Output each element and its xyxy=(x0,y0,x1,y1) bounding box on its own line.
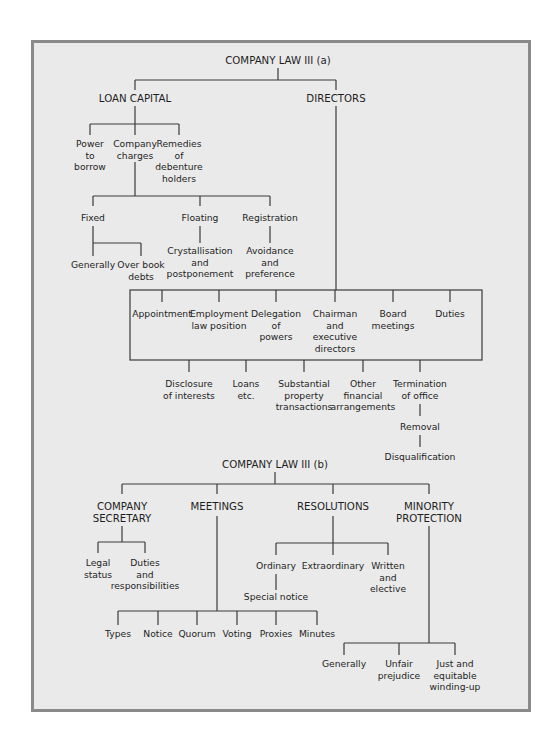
node-crystallisation-line: postponement xyxy=(167,268,234,279)
node-floating-line: Floating xyxy=(182,212,219,223)
node-written-elective-line: and xyxy=(379,572,396,583)
node-company-charges: Companycharges xyxy=(113,138,157,161)
node-meetings-minutes: Minutes xyxy=(299,628,335,639)
node-director-loans-line: Loans xyxy=(233,378,260,389)
node-director-chairman: Chairmanandexecutivedirectors xyxy=(313,308,358,354)
node-director-property-line: property xyxy=(284,390,324,401)
node-power-to-borrow: Powertoborrow xyxy=(74,138,106,172)
heading-meetings-line: MEETINGS xyxy=(191,501,244,512)
heading-loan-capital-line: LOAN CAPITAL xyxy=(99,93,172,104)
node-remedies-debenture-holders-line: Remedies xyxy=(156,138,201,149)
node-director-board-line: meetings xyxy=(372,320,415,331)
node-power-to-borrow-line: Power xyxy=(76,138,104,149)
node-meetings-quorum-line: Quorum xyxy=(178,628,215,639)
node-power-to-borrow-line: borrow xyxy=(74,161,106,172)
node-special-notice: Special notice xyxy=(244,591,309,602)
directors-box xyxy=(130,290,482,360)
node-director-appointment-line: Appointment xyxy=(132,308,192,319)
node-fixed-generally: Generally xyxy=(71,259,116,270)
node-power-to-borrow-line: to xyxy=(85,150,95,161)
company-law-diagram: COMPANY LAW III (a)LOAN CAPITALDIRECTORS… xyxy=(0,0,554,744)
node-director-financial-line: financial xyxy=(344,390,383,401)
node-legal-status: Legalstatus xyxy=(84,557,112,580)
node-over-book-debts-line: debts xyxy=(128,271,154,282)
node-remedies-debenture-holders-line: of xyxy=(175,150,185,161)
node-removal-line: Removal xyxy=(400,421,440,432)
node-duties-responsibilities-line: and xyxy=(136,569,153,580)
node-director-disclosure-line: of interests xyxy=(163,390,215,401)
node-remedies-debenture-holders-line: holders xyxy=(162,173,196,184)
node-company-charges-line: charges xyxy=(117,150,154,161)
node-written-elective-line: elective xyxy=(370,583,407,594)
node-crystallisation-line: Crystallisation xyxy=(167,245,232,256)
node-registration-line: Registration xyxy=(242,212,298,223)
node-director-financial: Otherfinancialarrangements xyxy=(331,378,396,412)
node-floating: Floating xyxy=(182,212,219,223)
node-meetings-voting: Voting xyxy=(222,628,251,639)
node-disqualification-line: Disqualification xyxy=(385,451,456,462)
title-company-law-a: COMPANY LAW III (a) xyxy=(225,55,331,66)
node-written-elective: Writtenandelective xyxy=(370,560,407,594)
node-director-chairman-line: executive xyxy=(313,331,358,342)
heading-resolutions-line: RESOLUTIONS xyxy=(297,501,369,512)
node-registration: Registration xyxy=(242,212,298,223)
node-unfair-prejudice-line: prejudice xyxy=(378,670,421,681)
node-director-employment: Employmentlaw position xyxy=(190,308,249,331)
node-remedies-debenture-holders-line: debenture xyxy=(155,161,203,172)
node-director-financial-line: arrangements xyxy=(331,401,396,412)
node-director-disclosure-line: Disclosure xyxy=(165,378,213,389)
node-remedies-debenture-holders: Remediesofdebentureholders xyxy=(155,138,203,184)
node-company-charges-line: Company xyxy=(113,138,157,149)
node-director-termination-line: Termination xyxy=(392,378,447,389)
node-director-termination: Terminationof office xyxy=(392,378,447,401)
node-labels: COMPANY LAW III (a)LOAN CAPITALDIRECTORS… xyxy=(71,55,481,692)
heading-company-secretary-line: COMPANY xyxy=(97,501,148,512)
node-unfair-prejudice-line: Unfair xyxy=(385,658,413,669)
heading-directors: DIRECTORS xyxy=(306,93,365,104)
node-meetings-quorum: Quorum xyxy=(178,628,215,639)
node-fixed-generally-line: Generally xyxy=(71,259,116,270)
node-director-duties: Duties xyxy=(435,308,465,319)
node-avoidance-preference-line: Avoidance xyxy=(246,245,294,256)
node-over-book-debts-line: Over book xyxy=(117,259,165,270)
node-meetings-proxies-line: Proxies xyxy=(260,628,293,639)
node-fixed: Fixed xyxy=(81,212,105,223)
heading-company-secretary: COMPANYSECRETARY xyxy=(93,501,152,524)
node-director-chairman-line: directors xyxy=(315,343,356,354)
node-just-equitable-winding-up: Just andequitablewinding-up xyxy=(430,658,481,692)
node-director-property-line: Substantial xyxy=(278,378,330,389)
node-director-delegation: Delegationofpowers xyxy=(251,308,301,342)
node-extraordinary: Extraordinary xyxy=(302,560,365,571)
node-director-delegation-line: of xyxy=(272,320,282,331)
node-director-board: Boardmeetings xyxy=(372,308,415,331)
node-director-employment-line: Employment xyxy=(190,308,249,319)
node-director-loans-line: etc. xyxy=(237,390,254,401)
node-director-chairman-line: Chairman xyxy=(313,308,358,319)
node-director-appointment: Appointment xyxy=(132,308,192,319)
node-special-notice-line: Special notice xyxy=(244,591,309,602)
node-avoidance-preference: Avoidanceandpreference xyxy=(245,245,295,279)
node-written-elective-line: Written xyxy=(371,560,405,571)
node-crystallisation: Crystallisationandpostponement xyxy=(167,245,234,279)
node-meetings-types: Types xyxy=(104,628,131,639)
node-disqualification: Disqualification xyxy=(385,451,456,462)
node-director-termination-line: of office xyxy=(402,390,439,401)
heading-directors-line: DIRECTORS xyxy=(306,93,365,104)
heading-minority-protection-line: PROTECTION xyxy=(396,513,462,524)
node-duties-responsibilities-line: Duties xyxy=(130,557,160,568)
node-meetings-minutes-line: Minutes xyxy=(299,628,335,639)
title-company-law-a-line: COMPANY LAW III (a) xyxy=(225,55,331,66)
node-legal-status-line: Legal xyxy=(86,557,111,568)
node-director-loans: Loansetc. xyxy=(233,378,260,401)
node-extraordinary-line: Extraordinary xyxy=(302,560,365,571)
node-director-chairman-line: and xyxy=(326,320,343,331)
heading-minority-protection-line: MINORITY xyxy=(404,501,455,512)
node-avoidance-preference-line: preference xyxy=(245,268,295,279)
heading-minority-protection: MINORITYPROTECTION xyxy=(396,501,462,524)
node-director-financial-line: Other xyxy=(350,378,376,389)
node-over-book-debts: Over bookdebts xyxy=(117,259,165,282)
title-company-law-b-line: COMPANY LAW III (b) xyxy=(222,459,328,470)
node-duties-responsibilities: Dutiesandresponsibilities xyxy=(111,557,180,591)
node-minority-generally-line: Generally xyxy=(322,658,367,669)
node-director-delegation-line: Delegation xyxy=(251,308,301,319)
